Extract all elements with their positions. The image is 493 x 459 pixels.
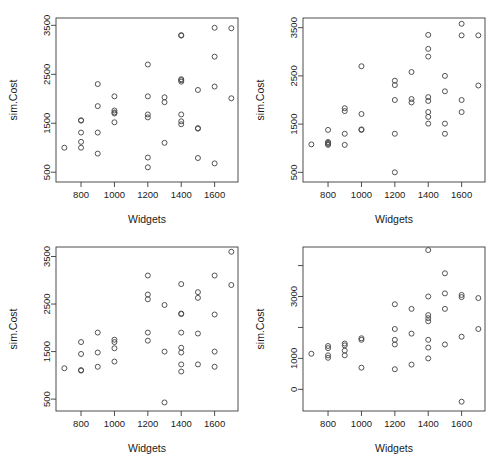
data-point [476, 296, 481, 301]
data-point [95, 82, 100, 87]
x-tick-label: 1200 [137, 418, 158, 429]
data-point [112, 94, 117, 99]
y-tick-label: 1500 [288, 114, 299, 135]
data-point [79, 340, 84, 345]
data-point [459, 33, 464, 38]
data-point [179, 369, 184, 374]
data-point [476, 327, 481, 332]
y-tick-label: 2500 [41, 64, 52, 85]
data-point [195, 331, 200, 336]
data-point [162, 349, 167, 354]
plot-frame [56, 247, 238, 411]
data-point-group [62, 249, 234, 405]
data-point [392, 98, 397, 103]
data-point [426, 294, 431, 299]
data-point [62, 145, 67, 150]
data-point [409, 306, 414, 311]
y-tick-label: 500 [41, 391, 52, 407]
x-tick-label: 800 [73, 418, 89, 429]
data-point [212, 84, 217, 89]
data-point [79, 145, 84, 150]
x-tick-label: 1000 [351, 189, 372, 200]
data-point [145, 273, 150, 278]
data-point [426, 121, 431, 126]
data-point [79, 130, 84, 135]
data-point [162, 400, 167, 405]
data-point [409, 331, 414, 336]
data-point [426, 114, 431, 119]
data-point [212, 349, 217, 354]
data-point [79, 351, 84, 356]
y-axis-title: sim.Cost [7, 309, 19, 350]
data-point [145, 94, 150, 99]
y-tick-label: 2500 [41, 293, 52, 314]
data-point [359, 64, 364, 69]
plot-frame [56, 18, 238, 182]
x-tick-label: 1200 [384, 189, 405, 200]
data-point [212, 364, 217, 369]
y-tick-label: 500 [41, 164, 52, 180]
y-tick-label: 3500 [288, 17, 299, 38]
data-point [145, 62, 150, 67]
data-point [392, 367, 397, 372]
x-tick-label: 800 [320, 189, 336, 200]
y-tick-label: 1000 [288, 348, 299, 369]
data-point [179, 330, 184, 335]
data-point [229, 283, 234, 288]
data-point [179, 345, 184, 350]
data-point [79, 139, 84, 144]
x-tick-label: 1000 [351, 418, 372, 429]
data-point [359, 365, 364, 370]
x-tick-label: 1600 [451, 189, 472, 200]
y-tick-label: 2500 [288, 65, 299, 86]
data-point [442, 131, 447, 136]
data-point [442, 342, 447, 347]
y-axis-title: sim.Cost [254, 80, 266, 121]
data-point [426, 319, 431, 324]
data-point [342, 131, 347, 136]
data-point [459, 399, 464, 404]
data-point-group [309, 248, 481, 405]
data-point [95, 104, 100, 109]
data-point [409, 362, 414, 367]
x-tick-label: 1600 [451, 418, 472, 429]
data-point [476, 83, 481, 88]
data-point [179, 350, 184, 355]
data-point [426, 46, 431, 51]
x-tick-label: 1600 [204, 418, 225, 429]
data-point [195, 290, 200, 295]
y-tick-label: 1500 [41, 341, 52, 362]
data-point [195, 87, 200, 92]
x-tick-label: 1200 [384, 418, 405, 429]
panel-bottom-right-canvas: 8001000120014001600010003000Widgetssim.C… [247, 229, 493, 458]
scatterplot-figure: 8001000120014001600500150025003500Widget… [0, 0, 493, 459]
panel-top-left-canvas: 8001000120014001600500150025003500Widget… [0, 0, 246, 229]
data-point [476, 33, 481, 38]
data-point [359, 111, 364, 116]
data-point [409, 70, 414, 75]
x-tick-label: 1000 [104, 418, 125, 429]
panel-bottom-left-canvas: 8001000120014001600500150025003500Widget… [0, 229, 246, 458]
data-point [112, 346, 117, 351]
chart-panel-bottom-right: 8001000120014001600010003000Widgetssim.C… [247, 229, 493, 458]
data-point [442, 89, 447, 94]
data-point [212, 54, 217, 59]
data-point [95, 350, 100, 355]
data-point [229, 249, 234, 254]
data-point [145, 165, 150, 170]
data-point [459, 334, 464, 339]
y-axis-title: sim.Cost [254, 309, 266, 350]
y-tick-label: 500 [288, 164, 299, 180]
data-point [442, 73, 447, 78]
data-point [442, 306, 447, 311]
data-point [409, 100, 414, 105]
data-point [442, 271, 447, 276]
y-axis-title: sim.Cost [7, 80, 19, 121]
y-tick-label: 3500 [41, 246, 52, 267]
data-point [212, 161, 217, 166]
x-tick-label: 800 [320, 418, 336, 429]
data-point [426, 345, 431, 350]
x-tick-label: 1400 [418, 418, 439, 429]
data-point [179, 112, 184, 117]
data-point-group [62, 25, 234, 170]
